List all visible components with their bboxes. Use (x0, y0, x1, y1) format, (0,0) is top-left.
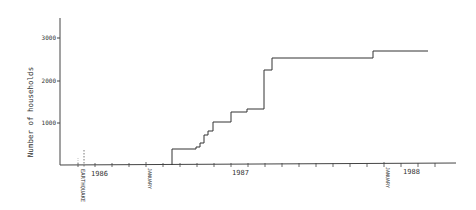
january-1988-label: JANUARY (385, 167, 391, 188)
x-axis (60, 163, 456, 165)
x-label-1986: 1986 (91, 170, 108, 178)
y-tick-3000: 3000 (42, 34, 57, 41)
january-1987-label: JANUARY (147, 168, 153, 189)
y-axis-label: Number of households (26, 67, 35, 157)
households-step-line (172, 51, 428, 165)
x-label-1987: 1987 (232, 169, 249, 177)
households-step-chart: Number of households 3000 2000 1000 (0, 0, 476, 210)
earthquake-label: EARTHQUAKE (80, 169, 86, 202)
y-tick-1000: 1000 (42, 119, 57, 126)
x-label-1988: 1988 (403, 168, 420, 176)
y-tick-2000: 2000 (42, 77, 57, 84)
